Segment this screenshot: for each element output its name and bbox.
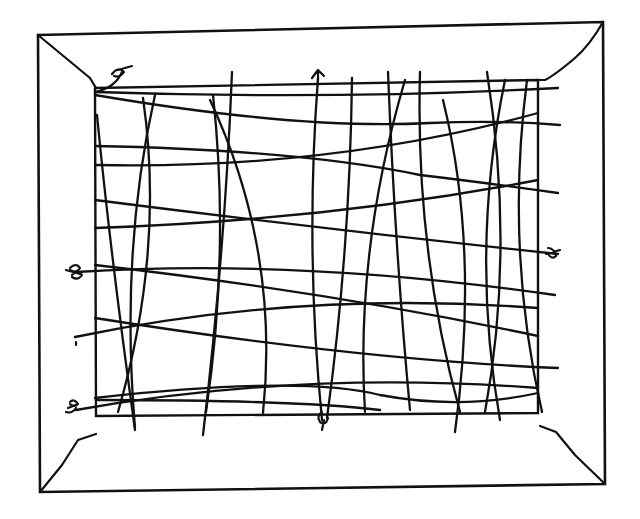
- knot-left: [66, 265, 82, 279]
- warp-string: [203, 72, 232, 435]
- bevel-line: [538, 22, 603, 80]
- warp-string: [131, 95, 156, 428]
- bevel-line: [38, 35, 96, 88]
- bevel-line: [540, 426, 605, 484]
- weft-string: [95, 180, 538, 228]
- warp-strings: [97, 72, 542, 435]
- warp-string: [363, 80, 405, 412]
- warp-string: [388, 72, 410, 410]
- warp-string: [312, 78, 322, 420]
- knot-right: [546, 248, 560, 258]
- loom-sketch: [0, 0, 640, 519]
- warp-string: [327, 78, 352, 418]
- bevel-line: [40, 434, 96, 492]
- warp-string: [486, 80, 505, 420]
- warp-string: [97, 115, 135, 430]
- weft-string: [75, 303, 538, 337]
- knot-top-center: [312, 70, 324, 80]
- weft-string: [98, 400, 380, 410]
- warp-string: [206, 95, 220, 412]
- weft-string: [95, 265, 538, 336]
